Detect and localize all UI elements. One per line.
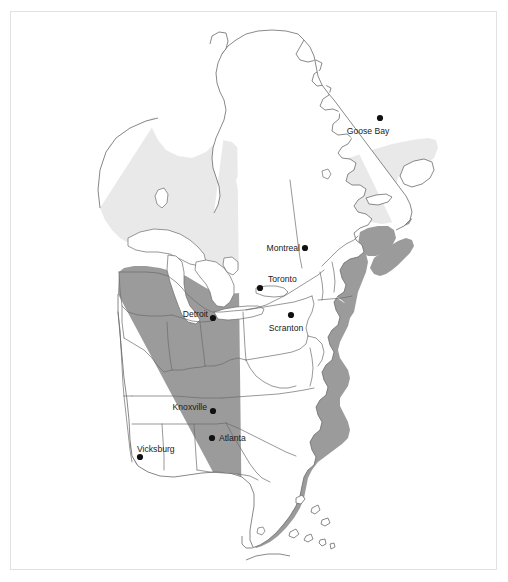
- city-dot-icon[interactable]: [137, 454, 143, 460]
- city-dot-icon[interactable]: [377, 115, 383, 121]
- city-label: Detroit: [183, 309, 209, 319]
- map-canvas[interactable]: Goose BayMontrealTorontoDetroitScrantonK…: [0, 0, 508, 582]
- city-label: Atlanta: [219, 433, 246, 443]
- city-label: Montreal: [267, 243, 301, 253]
- city-dot-icon[interactable]: [288, 312, 294, 318]
- city-marker-goose-bay[interactable]: Goose Bay: [347, 115, 390, 136]
- city-dot-icon[interactable]: [210, 315, 216, 321]
- city-label: Knoxville: [173, 402, 208, 412]
- cuba-outline: [246, 554, 290, 560]
- city-label: Scranton: [269, 323, 304, 333]
- city-label: Goose Bay: [347, 126, 390, 136]
- city-dot-icon[interactable]: [257, 285, 263, 291]
- city-dot-icon[interactable]: [302, 245, 308, 251]
- city-label: Vicksburg: [137, 444, 175, 454]
- city-dot-icon[interactable]: [210, 408, 216, 414]
- bahamas-islands-outline: [289, 495, 335, 549]
- map-figure: Goose BayMontrealTorontoDetroitScrantonK…: [0, 0, 508, 582]
- city-label: Toronto: [268, 274, 297, 284]
- city-dot-icon[interactable]: [209, 435, 215, 441]
